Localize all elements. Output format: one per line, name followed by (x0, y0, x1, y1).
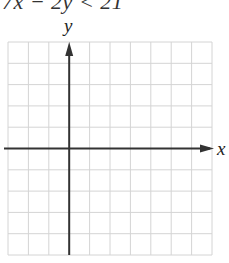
coordinate-grid: x y (0, 0, 229, 263)
axes (4, 42, 214, 255)
y-axis-label: y (62, 15, 73, 36)
x-axis-label: x (216, 138, 226, 159)
y-axis-arrow-icon (65, 42, 73, 56)
